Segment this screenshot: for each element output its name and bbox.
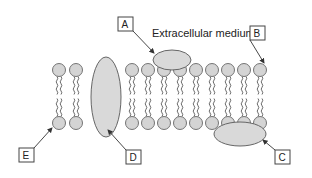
lipid-tail <box>209 77 211 95</box>
cell-membrane-diagram: Extracellular medium A B C D E <box>0 0 312 178</box>
lipid-tail <box>73 99 75 117</box>
lipid-tail <box>229 77 231 95</box>
lipid-tail <box>145 77 147 95</box>
lipid-tail <box>245 99 247 117</box>
svg-text:C: C <box>279 152 286 163</box>
lipid-tail <box>145 99 147 117</box>
phospholipid-head <box>142 64 155 77</box>
lipid-tail <box>181 99 183 117</box>
phospholipid-head <box>126 64 139 77</box>
phospholipid-head <box>206 117 219 130</box>
phospholipid-head <box>70 117 83 130</box>
phospholipid-head <box>70 64 83 77</box>
lipid-tail <box>177 99 179 117</box>
label-a: A <box>118 17 154 53</box>
lipid-tail <box>193 77 195 95</box>
lipid-tail <box>149 99 151 117</box>
lipid-tail <box>245 77 247 95</box>
lipid-tail <box>193 99 195 117</box>
lipid-tail <box>261 99 263 117</box>
phospholipid-head <box>53 64 66 77</box>
lipid-tail <box>241 77 243 95</box>
svg-text:E: E <box>23 150 30 161</box>
lipid-tail <box>161 99 163 117</box>
phospholipid-head <box>254 64 267 77</box>
lipid-tail <box>133 77 135 95</box>
integral-protein <box>91 57 121 137</box>
peripheral-protein-bottom <box>214 122 266 146</box>
phospholipid-head <box>190 117 203 130</box>
phospholipid-head <box>142 117 155 130</box>
lipid-tail <box>257 77 259 95</box>
label-d: D <box>108 130 141 164</box>
label-e: E <box>19 128 52 162</box>
phospholipid-head <box>190 64 203 77</box>
phospholipid-head <box>158 117 171 130</box>
lipid-tail <box>129 77 131 95</box>
lipid-tail <box>213 77 215 95</box>
lipid-tail <box>60 77 62 95</box>
phospholipid-head <box>206 64 219 77</box>
lipid-tail <box>73 77 75 95</box>
lipid-tail <box>60 99 62 117</box>
lipid-tail <box>149 77 151 95</box>
lipid-tail <box>257 99 259 117</box>
svg-text:D: D <box>130 152 137 163</box>
lipid-tail <box>129 99 131 117</box>
lipid-tail <box>241 99 243 117</box>
lipid-tail <box>181 77 183 95</box>
peripheral-protein-top <box>153 50 191 70</box>
svg-text:A: A <box>122 19 129 30</box>
lipid-tail <box>77 77 79 95</box>
lipid-tail <box>209 99 211 117</box>
lipid-tail <box>165 99 167 117</box>
extracellular-medium-label: Extracellular medium <box>152 27 255 39</box>
lipid-tail <box>261 77 263 95</box>
phospholipid-head <box>53 117 66 130</box>
label-b: B <box>250 26 265 63</box>
lipid-tail <box>197 99 199 117</box>
lipid-tail <box>213 99 215 117</box>
lipid-tail <box>161 77 163 95</box>
lipid-tail <box>165 77 167 95</box>
lipid-tail <box>133 99 135 117</box>
phospholipid-bilayer <box>53 64 267 130</box>
svg-text:B: B <box>254 28 261 39</box>
lipid-tail <box>225 99 227 117</box>
phospholipid-head <box>238 64 251 77</box>
lipid-tail <box>177 77 179 95</box>
label-c: C <box>263 140 290 164</box>
lipid-tail <box>197 77 199 95</box>
phospholipid-head <box>174 117 187 130</box>
lipid-tail <box>56 99 58 117</box>
lipid-tail <box>229 99 231 117</box>
lipid-tail <box>77 99 79 117</box>
phospholipid-head <box>222 64 235 77</box>
lipid-tail <box>225 77 227 95</box>
lipid-tail <box>56 77 58 95</box>
phospholipid-head <box>126 117 139 130</box>
